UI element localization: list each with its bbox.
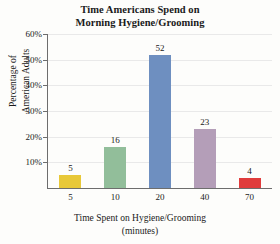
x-axis-tick-label: 20 — [155, 192, 164, 202]
y-axis-tick-label: 50% — [26, 55, 43, 65]
bar — [194, 129, 216, 188]
y-axis-title-line-1: Percentage of — [7, 26, 20, 136]
x-axis-title-line-2: (minutes) — [0, 225, 280, 238]
bar-value-label: 23 — [200, 117, 209, 127]
bar-group: 55 — [48, 34, 93, 188]
bar-group: 2340 — [182, 34, 227, 188]
y-axis-tick-label: 40% — [26, 80, 43, 90]
chart-title-line-1: Time Americans Spend on — [0, 3, 280, 16]
bar — [59, 175, 81, 188]
y-axis-tick-label: 30% — [26, 106, 43, 116]
x-axis-tick-label: 10 — [111, 192, 120, 202]
y-axis-tick-label: 20% — [26, 132, 43, 142]
x-axis-tick-label: 40 — [200, 192, 209, 202]
bar — [149, 55, 171, 188]
chart-title-line-2: Morning Hygiene/Grooming — [0, 16, 280, 29]
chart-title: Time Americans Spend on Morning Hygiene/… — [0, 3, 280, 29]
bar-group: 470 — [227, 34, 272, 188]
bar-chart: Time Americans Spend on Morning Hygiene/… — [0, 0, 280, 244]
bar-value-label: 16 — [111, 135, 120, 145]
bar-value-label: 5 — [68, 163, 73, 173]
x-axis-title: Time Spent on Hygiene/Grooming (minutes) — [0, 212, 280, 237]
bar-series: 55161052202340470 — [48, 34, 272, 188]
bar-value-label: 4 — [247, 166, 252, 176]
bar-value-label: 52 — [155, 43, 164, 53]
bar-group: 1610 — [93, 34, 138, 188]
x-axis-line — [47, 188, 272, 189]
x-axis-tick-label: 5 — [68, 192, 73, 202]
bar-group: 5220 — [138, 34, 183, 188]
y-axis-tick-label: 60% — [26, 29, 43, 39]
x-axis-tick-label: 70 — [245, 192, 254, 202]
y-axis-tick-label: 10% — [26, 157, 43, 167]
bar — [239, 178, 261, 188]
plot-area: 10%20%30%40%50%60% 55161052202340470 — [47, 34, 272, 188]
bar — [104, 147, 126, 188]
x-axis-title-line-1: Time Spent on Hygiene/Grooming — [0, 212, 280, 225]
